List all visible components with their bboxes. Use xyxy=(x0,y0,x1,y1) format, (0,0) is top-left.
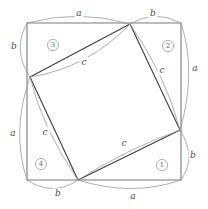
region-3-number: 3 xyxy=(51,41,55,49)
region-4-number: 4 xyxy=(39,160,44,168)
a-right: a xyxy=(192,63,197,73)
figure-canvas: abababab cccc 1234 xyxy=(0,0,208,209)
b-left: b xyxy=(11,41,17,51)
edge-label-group: abababab xyxy=(9,8,200,202)
arc-a-bottom xyxy=(78,180,181,189)
arc-a-left xyxy=(20,77,30,180)
arc-b-left xyxy=(20,23,30,77)
pythagorean-figure: abababab cccc 1234 xyxy=(0,0,208,209)
arc-b-bottom xyxy=(27,180,78,189)
c-region-2: c xyxy=(159,65,164,75)
a-top: a xyxy=(76,8,81,18)
b-top: b xyxy=(150,8,156,18)
region-marker-group: 1234 xyxy=(35,39,173,170)
c-region-1: c xyxy=(121,138,126,148)
region-1-number: 1 xyxy=(160,161,164,169)
b-right: b xyxy=(190,150,196,160)
region-2-number: 2 xyxy=(166,42,170,50)
a-bottom: a xyxy=(130,191,135,201)
c-region-3: c xyxy=(81,57,86,67)
c-region-4: c xyxy=(42,127,47,137)
b-bottom: b xyxy=(55,188,61,198)
a-left: a xyxy=(10,128,15,138)
